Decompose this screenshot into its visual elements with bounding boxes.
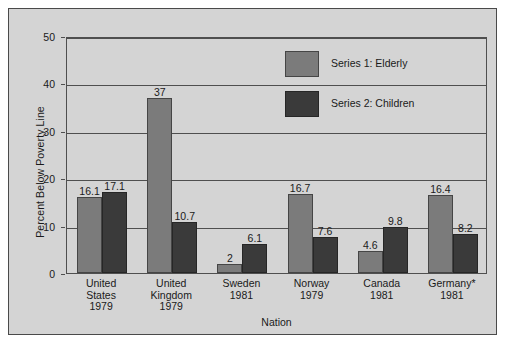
bar-2-5 [383, 227, 408, 273]
bar-value-2-3: 6.1 [236, 233, 273, 244]
y-tick-label-10: 10 [9, 222, 55, 233]
x-category-line: 1981 [409, 290, 495, 302]
chart-legend: Series 1: Elderly Series 2: Children [285, 47, 485, 127]
x-category-label-6: Germany*1981 [409, 278, 495, 301]
legend-label-series-2: Series 2: Children [331, 97, 414, 109]
bar-2-1 [102, 192, 127, 273]
bar-1-3 [217, 264, 242, 273]
y-tick-label-20: 20 [9, 174, 55, 185]
x-axis-title: Nation [66, 316, 487, 328]
bar-value-1-6: 16.4 [422, 184, 459, 195]
bar-1-5 [358, 251, 383, 273]
gridline-50 [67, 38, 486, 39]
bar-2-6 [453, 234, 478, 273]
bar-value-1-4: 16.7 [282, 183, 319, 194]
legend-swatch-series-2 [285, 91, 319, 117]
gridline-10 [67, 228, 486, 229]
y-tick-mark-50 [61, 37, 65, 38]
bar-1-6 [428, 195, 453, 273]
plot-area: 16.117.13710.726.116.77.64.69.816.48.2 S… [66, 37, 487, 274]
bar-2-2 [172, 222, 197, 273]
x-category-line: 1979 [128, 301, 214, 313]
y-tick-label-40: 40 [9, 79, 55, 90]
y-tick-mark-10 [61, 227, 65, 228]
bar-value-2-4: 7.6 [307, 226, 344, 237]
y-tick-mark-20 [61, 179, 65, 180]
bar-value-2-2: 10.7 [166, 211, 203, 222]
x-category-line: Germany* [409, 278, 495, 290]
chart-figure: Percent Below Poverty Line 16.117.13710.… [0, 0, 507, 345]
chart-panel: Percent Below Poverty Line 16.117.13710.… [8, 8, 497, 335]
y-tick-mark-30 [61, 132, 65, 133]
bar-value-2-5: 9.8 [377, 216, 414, 227]
y-tick-mark-40 [61, 84, 65, 85]
legend-swatch-series-1 [285, 51, 319, 77]
y-tick-label-50: 50 [9, 32, 55, 43]
bar-1-2 [147, 98, 172, 273]
y-tick-label-30: 30 [9, 127, 55, 138]
legend-item-series-1: Series 1: Elderly [285, 47, 485, 87]
legend-label-series-1: Series 1: Elderly [331, 57, 407, 69]
bar-2-3 [242, 244, 267, 273]
bar-2-4 [313, 237, 338, 273]
gridline-30 [67, 133, 486, 134]
y-axis-title: Percent Below Poverty Line [34, 57, 46, 287]
legend-item-series-2: Series 2: Children [285, 87, 485, 127]
bar-1-1 [77, 197, 102, 273]
y-tick-label-0: 0 [9, 269, 55, 280]
bar-value-2-1: 17.1 [96, 181, 133, 192]
bar-value-1-2: 37 [141, 87, 178, 98]
y-tick-mark-0 [61, 274, 65, 275]
bar-value-2-6: 8.2 [447, 223, 484, 234]
